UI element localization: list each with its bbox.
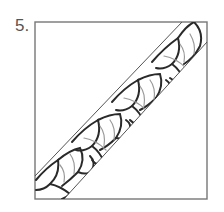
pinwheel-motif	[152, 22, 201, 82]
band-lower-edge	[64, 42, 207, 199]
pinwheel-motifs	[36, 22, 201, 199]
quilt-diagram	[0, 0, 224, 212]
pinwheel-motif	[72, 114, 131, 165]
band-upper-edge	[35, 22, 182, 176]
pinwheel-motif	[36, 148, 94, 199]
